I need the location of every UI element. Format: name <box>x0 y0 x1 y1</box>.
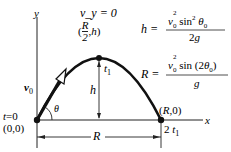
angle-arc <box>45 107 52 120</box>
apex-time-label: t1 <box>104 62 111 77</box>
range-arrow-left-icon <box>38 135 45 139</box>
height-arrow-up-icon <box>97 61 101 67</box>
x-axis-label: x <box>204 114 210 126</box>
initial-velocity-label: v0 <box>24 81 33 96</box>
landing-time-label: 2 t1 <box>164 123 179 138</box>
origin-coord-label: (0,0) <box>3 122 24 134</box>
landing-coord-label: (R,0) <box>159 104 181 116</box>
range-eq-numerator: v20 sin (2θ0) <box>168 59 216 74</box>
height-eq-lhs: h = <box>141 22 158 37</box>
height-eq-numerator: v20 sin2 θ0 <box>168 14 207 30</box>
y-axis-label: y <box>33 7 39 19</box>
apex-coord-label: (R2,h) <box>78 20 100 43</box>
origin-time-label: t=0 <box>3 110 18 122</box>
angle-label: θ <box>54 103 59 114</box>
range-eq-lhs: R = <box>141 67 159 82</box>
height-eq-denominator: 2g <box>189 31 200 43</box>
apex-point <box>96 55 102 61</box>
range-label: R <box>93 129 100 144</box>
velocity-vector-shaft <box>37 80 60 120</box>
range-eq-denominator: g <box>194 77 200 89</box>
range-arrow-right-icon <box>153 135 160 139</box>
height-label: h <box>90 83 96 98</box>
height-arrow-down-icon <box>97 113 101 119</box>
